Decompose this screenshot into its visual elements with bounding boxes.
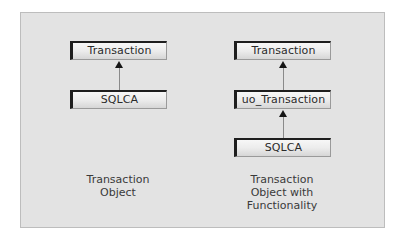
left-caption: Transaction Object <box>63 173 173 199</box>
left-sqlca-node: SQLCA <box>70 90 167 109</box>
right-lower-inherit-arrow-icon <box>279 110 287 117</box>
right-transaction-node: Transaction <box>234 41 331 60</box>
right-lower-inherit-connector <box>283 117 284 138</box>
right-caption: Transaction Object with Functionality <box>227 173 337 212</box>
right-caption-line-1: Transaction <box>227 173 337 186</box>
right-uo-transaction-node: uo_Transaction <box>234 90 331 109</box>
right-caption-line-2: Object with <box>227 186 337 199</box>
right-caption-line-3: Functionality <box>227 199 337 212</box>
left-inherit-connector <box>119 68 120 90</box>
right-upper-inherit-arrow-icon <box>279 61 287 68</box>
left-caption-line-2: Object <box>63 186 173 199</box>
right-sqlca-node: SQLCA <box>234 138 331 157</box>
left-inherit-arrow-icon <box>115 61 123 68</box>
right-upper-inherit-connector <box>283 68 284 90</box>
left-transaction-node: Transaction <box>70 41 167 60</box>
left-caption-line-1: Transaction <box>63 173 173 186</box>
